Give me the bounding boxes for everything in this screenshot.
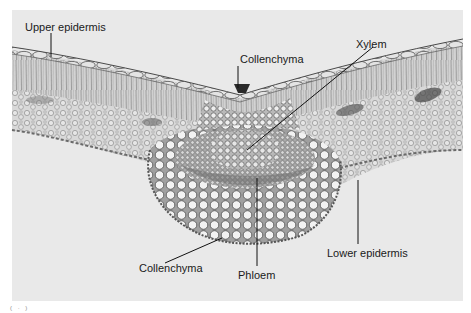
xylem-core	[210, 130, 280, 170]
label-xylem: Xylem	[356, 38, 387, 50]
label-lower-epidermis: Lower epidermis	[327, 247, 408, 259]
minor-vein-left	[142, 118, 162, 126]
leader-collenchyma-bottom	[165, 238, 222, 263]
label-phloem: Phloem	[238, 269, 275, 281]
minor-vein-left-2	[26, 96, 54, 104]
leaf-cross-section-figure: Upper epidermis Collenchyma Xylem Collen…	[0, 0, 471, 313]
leaf-cross-section-illustration	[0, 0, 471, 313]
label-collenchyma-top: Collenchyma	[240, 53, 304, 65]
collenchyma-top-marker	[234, 84, 250, 93]
panel-mark: ( · )	[10, 305, 29, 311]
label-upper-epidermis: Upper epidermis	[25, 21, 106, 33]
label-collenchyma-bottom: Collenchyma	[139, 262, 203, 274]
